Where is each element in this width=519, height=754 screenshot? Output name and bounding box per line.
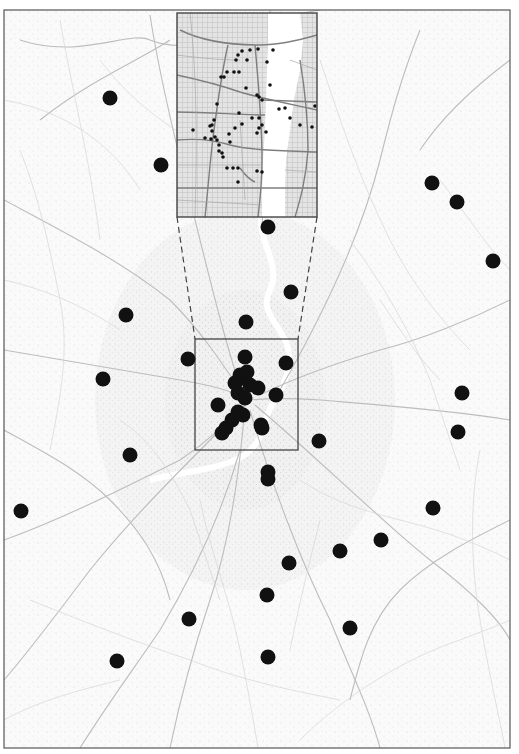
large-marker xyxy=(486,254,501,269)
small-marker xyxy=(228,140,232,144)
large-marker xyxy=(251,381,266,396)
large-marker xyxy=(374,533,389,548)
small-marker xyxy=(236,180,240,184)
small-marker xyxy=(210,129,214,133)
small-marker xyxy=(236,166,240,170)
small-marker xyxy=(213,135,217,139)
small-marker xyxy=(265,60,269,64)
large-marker xyxy=(284,285,299,300)
large-marker xyxy=(119,308,134,323)
small-marker xyxy=(250,116,254,120)
small-marker xyxy=(209,137,213,141)
large-marker xyxy=(269,388,284,403)
small-marker xyxy=(220,151,224,155)
large-marker xyxy=(14,504,29,519)
small-marker xyxy=(232,70,236,74)
small-marker xyxy=(225,70,229,74)
large-marker xyxy=(455,386,470,401)
small-marker xyxy=(257,95,261,99)
large-marker xyxy=(123,448,138,463)
small-marker xyxy=(240,122,244,126)
inset-map xyxy=(177,13,317,217)
small-marker xyxy=(227,132,231,136)
small-marker xyxy=(313,104,317,108)
small-marker xyxy=(260,123,264,127)
large-marker xyxy=(425,176,440,191)
large-marker xyxy=(260,588,275,603)
small-marker xyxy=(277,107,281,111)
small-marker xyxy=(233,126,237,130)
small-marker xyxy=(271,48,275,52)
small-marker xyxy=(256,47,260,51)
small-marker xyxy=(215,102,219,106)
small-marker xyxy=(212,118,216,122)
map-canvas xyxy=(0,0,519,754)
small-marker xyxy=(236,53,240,57)
small-marker xyxy=(215,138,219,142)
small-marker xyxy=(260,170,264,174)
small-marker xyxy=(268,83,272,87)
small-marker xyxy=(248,48,252,52)
large-marker xyxy=(110,654,125,669)
large-marker xyxy=(450,195,465,210)
small-marker xyxy=(264,130,268,134)
small-marker xyxy=(244,86,248,90)
large-marker xyxy=(312,434,327,449)
large-marker xyxy=(239,315,254,330)
small-marker xyxy=(237,70,241,74)
large-marker xyxy=(238,350,253,365)
small-marker xyxy=(221,155,225,159)
large-marker xyxy=(279,356,294,371)
small-marker xyxy=(283,106,287,110)
small-marker xyxy=(288,116,292,120)
small-marker xyxy=(208,124,212,128)
small-marker xyxy=(240,49,244,53)
large-marker xyxy=(182,612,197,627)
small-marker xyxy=(217,149,221,153)
large-marker xyxy=(240,365,255,380)
large-marker xyxy=(154,158,169,173)
small-marker xyxy=(298,123,302,127)
small-marker xyxy=(245,58,249,62)
large-marker xyxy=(181,352,196,367)
small-marker xyxy=(257,116,261,120)
small-marker xyxy=(257,126,261,130)
small-marker xyxy=(260,98,264,102)
large-marker xyxy=(261,472,276,487)
large-marker xyxy=(103,91,118,106)
large-marker xyxy=(211,398,226,413)
small-marker xyxy=(203,136,207,140)
large-marker xyxy=(333,544,348,559)
large-marker xyxy=(225,413,240,428)
large-marker xyxy=(343,621,358,636)
large-marker xyxy=(261,220,276,235)
large-marker xyxy=(426,501,441,516)
large-marker xyxy=(238,391,253,406)
small-marker xyxy=(219,75,223,79)
small-marker xyxy=(310,125,314,129)
map-figure xyxy=(0,0,519,754)
small-marker xyxy=(237,111,241,115)
large-marker xyxy=(255,421,270,436)
small-marker xyxy=(225,166,229,170)
large-marker xyxy=(451,425,466,440)
small-marker xyxy=(231,166,235,170)
small-marker xyxy=(255,131,259,135)
small-marker xyxy=(234,58,238,62)
large-marker xyxy=(215,426,230,441)
large-marker xyxy=(261,650,276,665)
large-marker xyxy=(282,556,297,571)
large-marker xyxy=(96,372,111,387)
small-marker xyxy=(255,169,259,173)
small-marker xyxy=(191,128,195,132)
small-marker xyxy=(217,143,221,147)
